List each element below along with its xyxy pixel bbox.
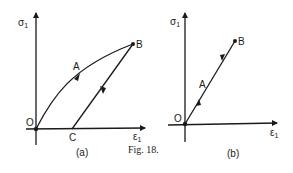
x-axis-label-b: ε1 [270, 127, 278, 139]
label-c-a: C [69, 132, 76, 143]
label-o-a: O [26, 117, 34, 128]
label-o-b: O [174, 113, 182, 124]
arrow-up-icon [196, 99, 201, 106]
label-b-b: B [238, 36, 245, 47]
point-b-b [233, 39, 237, 43]
panel-label-b: (b) [227, 148, 239, 159]
y-axis-label-a: σ1 [18, 17, 28, 29]
arrow-down-icon [100, 86, 106, 94]
panel-label-a: (a) [76, 147, 88, 158]
point-b-a [131, 42, 135, 46]
figure-caption: Fig. 18. [128, 144, 159, 155]
panel-b: σ1 ε1 O A B (b) [168, 13, 278, 159]
label-b-a: B [136, 39, 143, 50]
loading-line-b [185, 41, 235, 124]
point-origin-b [183, 122, 187, 126]
panel-a: σ1 ε1 O A B C (a) [18, 13, 145, 158]
unloading-line-a [72, 44, 133, 129]
label-a-a: A [73, 61, 80, 72]
x-axis-a [26, 128, 145, 129]
point-origin-a [34, 127, 38, 131]
figure-canvas: σ1 ε1 O A B C (a) σ1 ε1 O A B (b) Fig. 1… [0, 0, 293, 173]
label-a-b: A [199, 79, 206, 90]
loading-curve-a [36, 44, 133, 129]
x-axis-label-a: ε1 [133, 131, 141, 143]
y-axis-label-b: σ1 [170, 16, 180, 28]
